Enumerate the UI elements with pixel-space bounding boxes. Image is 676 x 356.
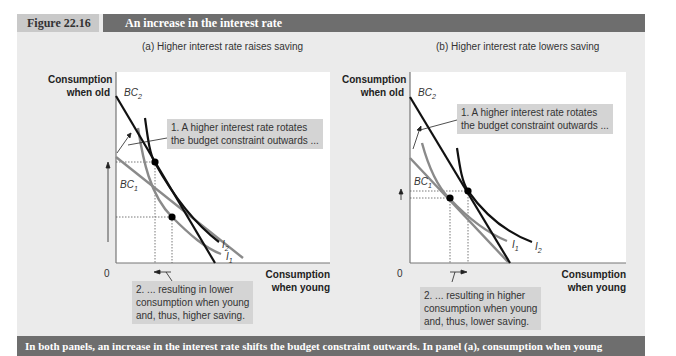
panel-a-i2 — [145, 118, 219, 242]
panel-b-point-old — [446, 194, 453, 201]
svg-text:BC2: BC2 — [124, 87, 142, 100]
svg-text:I1: I1 — [226, 251, 233, 264]
figure-caption: In both panels, an increase in the inter… — [17, 336, 645, 356]
panel-a-point-old — [168, 213, 175, 220]
svg-text:BC2: BC2 — [418, 87, 436, 100]
svg-text:BC1: BC1 — [120, 179, 138, 192]
panel-b-axes — [410, 72, 626, 263]
svg-text:I1: I1 — [512, 239, 519, 252]
panel-b-point-new — [464, 187, 471, 194]
svg-text:I2: I2 — [535, 241, 542, 254]
panel-b-guides — [410, 191, 468, 263]
panel-b-arrows — [399, 120, 467, 282]
panel-b-bc1 — [410, 158, 508, 262]
panel-a-point-new — [151, 158, 158, 165]
panel-b-i1 — [422, 143, 507, 241]
panel-a-axes — [116, 72, 330, 263]
